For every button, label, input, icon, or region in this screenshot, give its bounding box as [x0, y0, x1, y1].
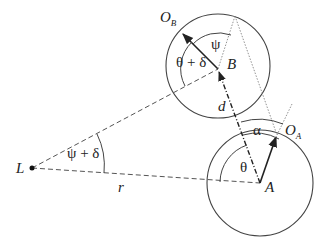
label-d: d — [218, 99, 226, 114]
dotted-top-to-OA — [235, 16, 277, 135]
label-O-B-main: O — [160, 9, 171, 25]
line-L-to-B — [32, 69, 218, 168]
label-psi: ψ — [211, 37, 220, 52]
label-alpha: α — [253, 123, 261, 138]
label-O-A-sub: A — [296, 131, 302, 141]
label-theta-plus-delta: θ + δ — [176, 55, 206, 70]
diagram-svg — [0, 0, 329, 252]
label-A: A — [265, 180, 274, 195]
line-r-L-to-A — [32, 168, 260, 183]
label-O-A-main: O — [285, 122, 296, 138]
geometry-diagram: L r ψ + δ θ + δ ψ B d α θ A OA OB — [0, 0, 329, 252]
arc-alpha-inner — [243, 133, 279, 139]
arc-alpha-outer — [241, 119, 283, 124]
label-L: L — [16, 161, 24, 176]
label-O-A: OA — [285, 123, 301, 141]
label-psi-plus-delta: ψ + δ — [67, 146, 99, 161]
label-O-B: OB — [160, 10, 176, 28]
arrow-A-to-OA — [260, 137, 276, 183]
label-O-B-sub: B — [171, 18, 177, 28]
point-L — [30, 166, 35, 171]
label-theta: θ — [240, 160, 247, 175]
label-B: B — [227, 57, 236, 72]
label-r: r — [118, 180, 124, 195]
